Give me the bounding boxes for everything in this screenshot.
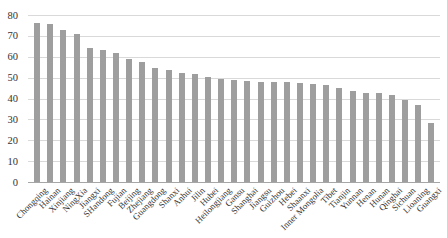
- bar-guangxi: [428, 123, 434, 182]
- gridline: [28, 36, 440, 37]
- bar-guangdong: [152, 68, 158, 182]
- bar-shanghai: [244, 81, 250, 182]
- y-tick-label: 60: [0, 51, 18, 62]
- bar-yunnan: [350, 91, 356, 182]
- bar-anhui: [179, 73, 185, 182]
- bar-henan: [363, 93, 369, 182]
- y-tick-label: 70: [0, 30, 18, 41]
- bar-beijing: [126, 59, 132, 182]
- bar-heilongjiang: [218, 79, 224, 182]
- y-tick-label: 20: [0, 135, 18, 146]
- bar-hubei: [205, 77, 211, 182]
- y-tick-label: 40: [0, 93, 18, 104]
- bar-lioaning: [415, 105, 421, 182]
- bar-fujian: [113, 53, 119, 182]
- bar-tianjin: [336, 88, 342, 182]
- bar-shanxi: [166, 70, 172, 182]
- bar-inner-mongolia: [310, 84, 316, 182]
- bar-ningxia: [74, 34, 80, 182]
- x-axis-line: [28, 182, 440, 183]
- y-tick-label: 0: [0, 177, 18, 188]
- bar-chart: 01020304050607080 ChongqingHainanXinjian…: [0, 0, 447, 238]
- bar-chongqing: [34, 23, 40, 182]
- gridline: [28, 15, 440, 16]
- y-tick-label: 10: [0, 156, 18, 167]
- y-tick-label: 30: [0, 114, 18, 125]
- bar-shaanxi: [297, 83, 303, 182]
- bar-jilin: [192, 74, 198, 182]
- bar-hainan: [47, 24, 53, 182]
- y-tick-label: 80: [0, 10, 18, 21]
- bar-xinjiang: [60, 30, 66, 182]
- bar-guizhou: [271, 82, 277, 182]
- bar-tibet: [323, 85, 329, 182]
- bar-sichuan: [402, 100, 408, 182]
- bar-jiangsu: [258, 82, 264, 182]
- bar-gansu: [231, 80, 237, 182]
- bar-shandong: [100, 50, 106, 182]
- bar-hebei: [284, 82, 290, 182]
- y-tick-label: 50: [0, 72, 18, 83]
- bar-qinghai: [389, 95, 395, 182]
- bar-zhejiang: [139, 62, 145, 182]
- bar-hunan: [376, 93, 382, 182]
- bar-jiangxi: [87, 48, 93, 182]
